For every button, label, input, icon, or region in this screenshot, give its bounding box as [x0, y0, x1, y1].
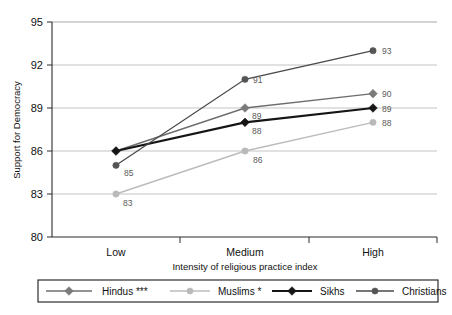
x-tick-label-high: High: [362, 246, 384, 258]
y-tick-label-83: 83: [31, 188, 43, 200]
data-point-muslims-low: [113, 191, 119, 197]
series-muslims: [116, 122, 373, 194]
y-tick-label-80: 80: [31, 231, 43, 243]
y-tick-label-95: 95: [31, 16, 43, 28]
data-point-christians-medium: [242, 76, 248, 82]
data-point-christians-low: [113, 162, 119, 168]
series-line-muslims: [116, 122, 373, 194]
legend-label-sikhs: Sikhs: [320, 286, 344, 297]
point-label-muslims-low: 83: [123, 198, 133, 208]
y-tick-label-89: 89: [31, 102, 43, 114]
x-tick-label-medium: Medium: [226, 246, 264, 258]
x-tick-label-low: Low: [106, 246, 126, 258]
y-axis-title: Support for Democracy: [11, 81, 22, 179]
point-label-muslims-high: 88: [382, 118, 392, 128]
legend-marker-christians: [372, 288, 378, 294]
data-point-muslims-high: [370, 119, 376, 125]
legend-label-muslims: Muslims *: [218, 286, 261, 297]
point-label-hindus-medium: 89: [252, 111, 262, 121]
point-label-sikhs-medium: 88: [252, 126, 262, 136]
legend-marker-muslims: [187, 288, 193, 294]
data-series-layer: [112, 47, 378, 197]
legend-label-hindus: Hindus ***: [102, 286, 148, 297]
axes: [47, 22, 437, 243]
point-label-muslims-medium: 86: [253, 155, 263, 165]
data-point-sikhs-medium: [241, 118, 250, 127]
data-point-hindus-high: [369, 89, 378, 98]
legend-label-christians: Christians: [402, 286, 446, 297]
data-point-christians-high: [370, 47, 376, 53]
chart-container: 95 92 89 86 83 80 Support for Democracy …: [0, 0, 452, 315]
data-point-muslims-medium: [242, 148, 248, 154]
data-point-sikhs-low: [112, 147, 121, 156]
point-label-christians-low: 85: [124, 168, 134, 178]
series-sikhs: [116, 108, 373, 151]
y-tick-label-92: 92: [31, 59, 43, 71]
x-axis-title: Intensity of religious practice index: [172, 261, 317, 272]
point-label-hindus-high: 90: [382, 89, 392, 99]
line-chart: 95 92 89 86 83 80 Support for Democracy …: [0, 0, 452, 315]
point-label-sikhs-high: 89: [382, 104, 392, 114]
data-point-hindus-medium: [241, 104, 250, 113]
series-line-sikhs: [116, 108, 373, 151]
y-tick-label-86: 86: [31, 145, 43, 157]
data-point-sikhs-high: [369, 104, 378, 113]
point-label-christians-medium: 91: [253, 75, 263, 85]
point-label-christians-high: 93: [382, 46, 392, 56]
